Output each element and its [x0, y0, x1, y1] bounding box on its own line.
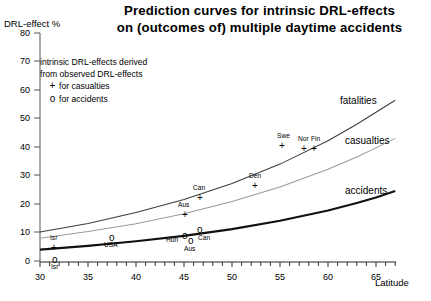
data-point-casualties-nor: +	[301, 144, 307, 154]
plus-marker-icon: +	[46, 80, 59, 92]
legend-entry-casualties: +for casualties	[40, 80, 192, 93]
data-label-accidents-isr: Isr	[51, 263, 58, 270]
legend-accidents-label: for accidents	[59, 94, 108, 104]
chart-figure: Prediction curves for intrinsic DRL-effe…	[0, 0, 431, 301]
curve-label-accidents: accidents	[345, 185, 387, 196]
legend-entry-accidents: ofor accidents	[40, 93, 192, 106]
data-point-casualties-isr: +	[51, 243, 57, 253]
legend: intrinsic DRL-effects derived from obser…	[40, 57, 192, 105]
data-point-casualties-den: +	[252, 181, 258, 191]
data-label-accidents-can: Can	[198, 234, 210, 241]
data-label-accidents-aus: Aus	[184, 245, 195, 252]
data-point-casualties-aus: +	[182, 210, 188, 220]
plot-area	[0, 0, 431, 301]
data-label-casualties-aus: Aus	[178, 201, 189, 208]
circle-marker-icon: o	[46, 93, 59, 105]
legend-casualties-label: for casualties	[59, 81, 110, 91]
legend-description-line-1: intrinsic DRL-effects derived	[40, 57, 192, 69]
curve-fatalities	[40, 100, 395, 232]
data-label-casualties-den: Den	[249, 172, 261, 179]
data-label-casualties-swe: Swe	[277, 132, 290, 139]
data-label-casualties-fin: Fin	[311, 135, 320, 142]
data-label-casualties-isr: Isr	[50, 234, 57, 241]
data-label-casualties-can: Can	[193, 184, 205, 191]
curve-label-fatalities: fatalities	[340, 95, 377, 106]
data-label-casualties-nor: Nor	[298, 135, 309, 142]
data-point-casualties-swe: +	[279, 141, 285, 151]
data-label-accidents-usa: USA	[104, 241, 118, 248]
curve-label-casualties: casualties	[345, 135, 389, 146]
x-tick-marks-minor	[40, 262, 395, 267]
data-point-accidents-hun: o	[182, 231, 188, 241]
data-point-casualties-fin: +	[311, 144, 317, 154]
data-label-accidents-hun: Hun	[166, 236, 178, 243]
curve-accidents	[40, 191, 395, 250]
legend-description-line-2: from observed DRL-effects	[40, 69, 192, 81]
data-point-casualties-can: +	[197, 193, 203, 203]
